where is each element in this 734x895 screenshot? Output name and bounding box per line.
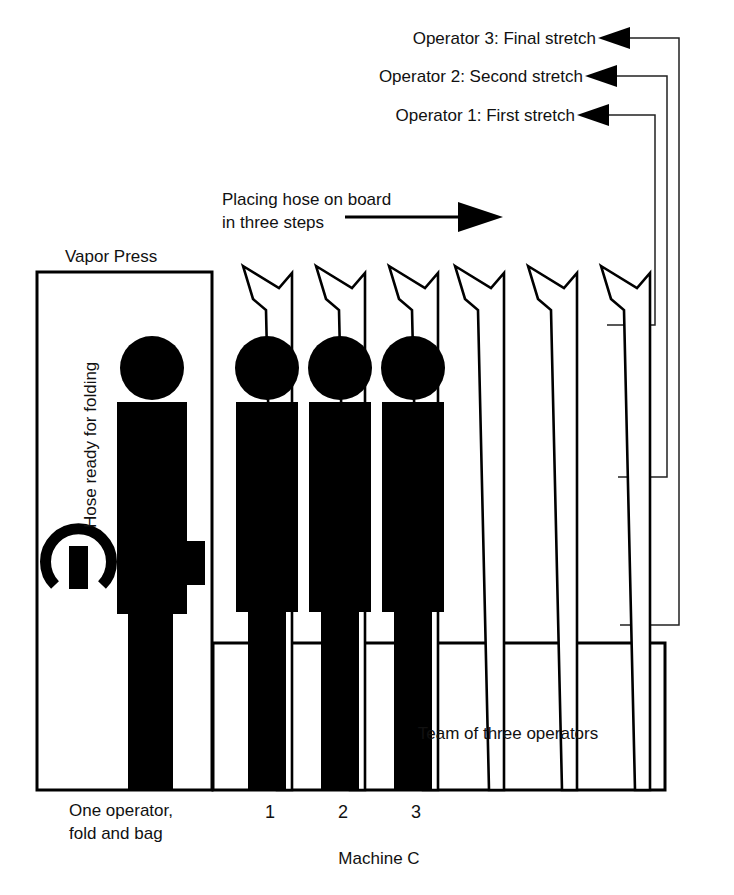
hose-board-4 <box>455 266 504 790</box>
one-operator-label-line1: One operator, <box>69 801 173 820</box>
figure-torso-vapor-press <box>117 402 187 614</box>
placing-hose-label-line1: Placing hose on board <box>222 190 391 209</box>
operator-figure-vapor-press <box>117 336 205 790</box>
figure-head-vapor-press <box>120 336 184 400</box>
placing-arrow-head <box>458 202 503 232</box>
figure-legs-vapor-press <box>128 614 173 790</box>
figure-legs-1 <box>248 612 286 790</box>
hose-board-5 <box>528 266 577 790</box>
figure-arm-vapor-press <box>187 541 205 585</box>
hose-board-6 <box>601 266 650 790</box>
one-operator-label-line2: fold and bag <box>69 824 163 843</box>
placing-hose-label-line2: in three steps <box>222 213 324 232</box>
figure-head-2 <box>308 336 372 400</box>
machine-c-label: Machine C <box>338 849 419 868</box>
vapor-press-label: Vapor Press <box>65 247 157 266</box>
arrowhead-operator-1 <box>577 104 609 126</box>
station-number-1: 1 <box>265 802 275 822</box>
diagram-canvas: Operator 3: Final stretch Operator 2: Se… <box>0 0 734 895</box>
arrowhead-operator-3 <box>598 27 630 49</box>
figure-torso-3 <box>382 402 444 612</box>
hose-coil-core <box>69 546 88 589</box>
hose-board-shapes <box>243 266 650 790</box>
arrowhead-operator-2 <box>585 65 617 87</box>
figure-legs-2 <box>321 612 359 790</box>
team-of-three-label: Team of three operators <box>418 724 598 743</box>
station-number-2: 2 <box>338 802 348 822</box>
hose-coil-symbol <box>46 529 112 589</box>
station-number-3: 3 <box>411 802 421 822</box>
operator-2-callout-label: Operator 2: Second stretch <box>379 67 583 86</box>
hose-ready-label: Hose ready for folding <box>81 362 100 528</box>
figure-head-1 <box>235 336 299 400</box>
diagram-root: Operator 3: Final stretch Operator 2: Se… <box>0 0 734 895</box>
figure-torso-2 <box>309 402 371 612</box>
operator-1-callout-label: Operator 1: First stretch <box>396 106 576 125</box>
figure-torso-1 <box>236 402 298 612</box>
figure-head-3 <box>381 336 445 400</box>
operator-3-callout-label: Operator 3: Final stretch <box>413 29 596 48</box>
figure-legs-3 <box>394 612 432 790</box>
